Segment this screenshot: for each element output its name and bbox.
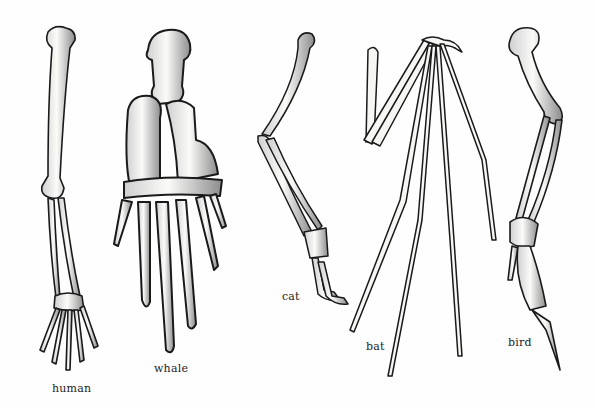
whale-flipper-icon	[114, 30, 226, 352]
human-arm-icon	[40, 27, 98, 370]
cat-leg-icon	[258, 33, 348, 304]
homology-diagram: human whale cat bat bird	[0, 0, 595, 408]
bat-wing-icon	[350, 37, 496, 376]
bird-wing-icon	[508, 28, 562, 370]
label-whale: whale	[154, 362, 188, 375]
label-bat: bat	[366, 340, 385, 353]
limb-illustrations	[0, 0, 595, 408]
label-cat: cat	[282, 290, 300, 303]
label-human: human	[52, 382, 91, 395]
label-bird: bird	[508, 336, 532, 349]
